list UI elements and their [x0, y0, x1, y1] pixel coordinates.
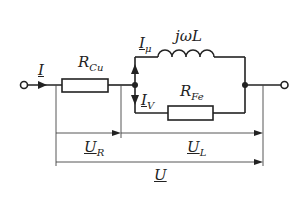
- label-i-v: IV: [141, 93, 154, 108]
- label-r-cu: RCu: [78, 55, 103, 70]
- input-terminal: [21, 82, 28, 89]
- inductor: [158, 50, 214, 57]
- label-inductor: jωL: [175, 29, 202, 44]
- label-u-l: UL: [187, 140, 206, 155]
- output-terminal: [281, 82, 288, 89]
- circuit-diagram: I RCu Iμ jωL IV RFe UR UL U: [0, 0, 301, 199]
- resistor-rcu: [62, 79, 108, 92]
- label-r-fe: RFe: [180, 84, 204, 99]
- resistor-rfe: [168, 106, 213, 120]
- label-current-i: I: [38, 63, 44, 78]
- label-i-mu: Iμ: [139, 36, 151, 51]
- label-u: U: [154, 168, 167, 183]
- label-u-r: UR: [84, 140, 104, 155]
